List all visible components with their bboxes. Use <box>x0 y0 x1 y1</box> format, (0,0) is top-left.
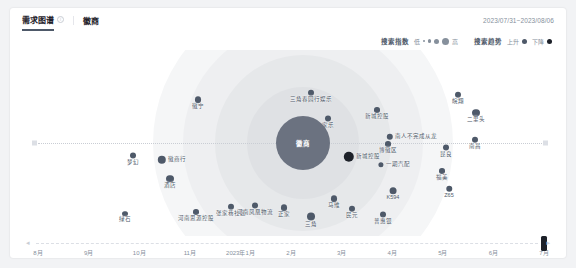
graph-node-bubble <box>281 204 288 211</box>
legend-row: 搜索指数 低 高 搜索趋势 上升 下降 <box>10 32 566 50</box>
legend-size-group: 搜索指数 低 高 <box>381 36 459 46</box>
graph-node-label: 皖翔 <box>452 99 464 105</box>
graph-node-bubble <box>344 152 354 162</box>
graph-node-label: 梦幻 <box>127 160 139 166</box>
timeline-tick[interactable]: 6月 <box>489 248 498 257</box>
graph-node-label: 河南思源控股 <box>178 216 214 222</box>
legend-trend-down-label: 下降 <box>532 37 544 46</box>
graph-node-label: 新城控股 <box>365 114 389 120</box>
graph-node[interactable]: 民元 <box>346 206 358 219</box>
graph-node[interactable]: 新城控股 <box>344 152 380 162</box>
graph-node-label: 南人不完成从龙 <box>395 134 437 140</box>
timeline-tick[interactable]: 5月 <box>438 248 447 257</box>
graph-node[interactable]: 昆良 <box>440 145 452 158</box>
graph-node-bubble <box>331 195 338 202</box>
graph-node-label: 徽商行 <box>168 157 186 163</box>
legend-trend-down: 下降 <box>532 37 552 46</box>
date-range-label: 2023/07/31~2023/08/06 <box>483 17 554 24</box>
graph-node-label: K594 <box>387 195 400 201</box>
tab-demand-graph-label: 需求图谱 <box>22 14 54 25</box>
graph-node[interactable]: 南昌 <box>469 137 481 150</box>
graph-node-label: 酒店 <box>164 183 176 189</box>
graph-node-label: 三角 <box>305 222 317 228</box>
legend-trend-title: 搜索趋势 <box>474 36 502 46</box>
page-root: 需求图谱 i 徽商 2023/07/31~2023/08/06 搜索指数 低 高 <box>0 0 576 268</box>
timeline-tick[interactable]: 2月 <box>286 248 295 257</box>
timeline-tick[interactable]: 4月 <box>388 248 397 257</box>
graph-node-label: 普惠银 <box>374 219 392 225</box>
legend-size-scale: 低 高 <box>414 37 459 46</box>
timeline-tick[interactable]: 10月 <box>133 248 146 257</box>
graph-node-label: 绿石 <box>119 217 131 223</box>
graph-node[interactable]: 博徽区 <box>379 141 397 153</box>
timeline-prev-arrow[interactable]: ◂ <box>26 239 30 246</box>
graph-node[interactable]: 马维 <box>328 195 340 208</box>
legend-trend-up-label: 上升 <box>507 37 519 46</box>
breadcrumb: 徽商 <box>83 15 99 26</box>
graph-node[interactable]: 三角春园行娱乐 <box>290 90 332 103</box>
graph-node[interactable]: K594 <box>387 187 400 201</box>
timeline-tick[interactable]: 3月 <box>337 248 346 257</box>
graph-node[interactable]: 一期汽配 <box>378 162 409 168</box>
graph-node[interactable]: 河南凤凰物流 <box>237 203 273 216</box>
graph-node-bubble <box>193 209 199 215</box>
timeline-tick[interactable]: 11月 <box>184 248 196 257</box>
header-divider <box>73 16 74 25</box>
graph-node[interactable]: Z65 <box>444 186 453 199</box>
graph-node-label: 三角春园行娱乐 <box>290 97 332 103</box>
graph-node-label: 民元 <box>346 213 358 219</box>
demand-graph-chart[interactable]: 梦幻徽商行酒店徽宁绿石河南思源控股张家巷社区河南凤凰物流正家三角三角春园行娱乐家… <box>12 50 564 236</box>
graph-node-bubble <box>195 96 202 103</box>
graph-node-label: 新城控股 <box>356 154 380 160</box>
graph-node[interactable]: 新城控股 <box>365 107 389 119</box>
center-node[interactable]: 徽商 <box>276 116 330 170</box>
graph-node-label: 博徽区 <box>379 148 397 154</box>
legend-size-dot-2 <box>428 39 432 43</box>
card-header: 需求图谱 i 徽商 2023/07/31~2023/08/06 <box>10 8 566 32</box>
legend-size-max-label: 高 <box>452 37 458 46</box>
graph-node-bubble <box>385 141 391 147</box>
graph-node-bubble <box>158 156 166 164</box>
graph-node[interactable]: 酒店 <box>164 175 176 189</box>
graph-node[interactable]: 梦幻 <box>127 153 139 166</box>
graph-node-label: 马维 <box>328 203 340 209</box>
legend-size-dot-3 <box>434 39 439 44</box>
timeline[interactable]: ◂ 8月9月10月11月2023年1月2月3月4月5月6月7月 ▸ <box>24 236 552 258</box>
graph-node[interactable]: 二里头 <box>467 109 485 123</box>
legend-size-dot-4 <box>442 38 449 45</box>
timeline-tick[interactable]: 9月 <box>84 248 93 257</box>
graph-node[interactable]: 福美 <box>436 168 448 180</box>
graph-node-label: 福美 <box>436 175 448 181</box>
timeline-tick[interactable]: 2023年1月 <box>226 248 255 257</box>
graph-node-label: Z65 <box>444 193 453 199</box>
legend-size-dot-1 <box>423 40 425 42</box>
info-icon[interactable]: i <box>57 16 64 23</box>
tab-bar: 需求图谱 i <box>22 10 64 31</box>
timeline-tick[interactable]: 8月 <box>33 248 42 257</box>
graph-node-label: 昆良 <box>440 152 452 158</box>
graph-node[interactable]: 徽宁 <box>192 96 204 109</box>
legend-size-min-label: 低 <box>414 37 420 46</box>
axis-cap-left <box>32 141 37 146</box>
axis-cap-right <box>543 141 548 146</box>
graph-node-bubble <box>387 134 393 140</box>
legend-trend-up: 上升 <box>507 37 527 46</box>
graph-node[interactable]: 正家 <box>278 204 290 217</box>
graph-node[interactable]: 徽商行 <box>158 156 186 164</box>
graph-node[interactable]: 皖翔 <box>452 92 464 105</box>
graph-node-bubble <box>378 162 383 167</box>
graph-node[interactable]: 南人不完成从龙 <box>387 134 437 140</box>
graph-node-label: 二里头 <box>467 117 485 123</box>
graph-node-label: 徽宁 <box>192 104 204 110</box>
legend-size-title: 搜索指数 <box>381 36 409 46</box>
graph-node-label: 正家 <box>278 212 290 218</box>
graph-node[interactable]: 普惠银 <box>374 212 392 225</box>
graph-node[interactable]: 绿石 <box>119 211 131 223</box>
graph-node[interactable]: 河南思源控股 <box>178 209 214 221</box>
tab-demand-graph[interactable]: 需求图谱 i <box>22 10 64 31</box>
graph-node-label: 河南凤凰物流 <box>237 210 273 216</box>
timeline-next-arrow[interactable]: ▸ <box>546 239 550 246</box>
demand-graph-card: 需求图谱 i 徽商 2023/07/31~2023/08/06 搜索指数 低 高 <box>10 8 566 258</box>
timeline-track[interactable] <box>36 243 538 244</box>
graph-node[interactable]: 三角 <box>305 213 317 228</box>
